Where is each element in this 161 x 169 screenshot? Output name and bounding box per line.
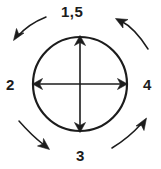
arrowhead-top-left xyxy=(14,29,25,41)
diagram-canvas: 1,5 2 4 3 xyxy=(0,0,161,169)
label-right-position: 4 xyxy=(143,77,152,92)
label-bottom-position: 3 xyxy=(76,148,85,163)
arrow-bottom-right xyxy=(112,118,147,148)
label-left-position: 2 xyxy=(6,77,15,92)
arrow-top-left xyxy=(14,17,47,41)
arrowhead-bottom-left xyxy=(38,139,50,150)
diagram-graphics xyxy=(0,0,161,169)
label-top-position: 1,5 xyxy=(61,4,83,19)
arrow-bottom-left xyxy=(19,121,50,150)
arrow-top-right xyxy=(116,19,149,50)
